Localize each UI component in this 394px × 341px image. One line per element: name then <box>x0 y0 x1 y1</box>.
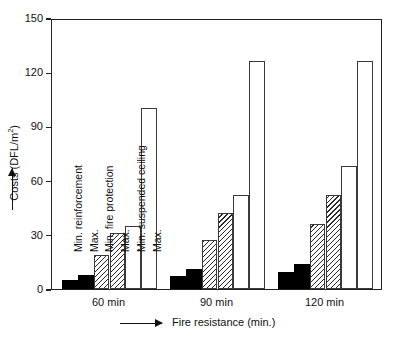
bar <box>62 280 78 289</box>
bar <box>294 264 310 289</box>
bar <box>170 276 186 289</box>
bar <box>326 195 342 289</box>
bar <box>341 166 357 289</box>
bar <box>357 61 373 289</box>
plot-area: Min. reinforcementMax.Min. fire protecti… <box>51 19 382 290</box>
bar <box>78 275 94 289</box>
bar <box>218 213 234 289</box>
bar <box>94 255 110 289</box>
bar <box>310 224 326 289</box>
chart-figure: Costs (DFL/m2) 0306090120150 Min. reinfo… <box>0 0 394 341</box>
bar <box>186 269 202 289</box>
y-tick-label: 90 <box>17 121 43 132</box>
x-axis-arrow-icon <box>120 323 162 324</box>
x-category-label: 90 min <box>161 296 272 308</box>
y-tick-label: 30 <box>17 230 43 241</box>
bar <box>278 272 294 289</box>
y-axis-arrow-icon <box>12 168 13 210</box>
y-tick-label: 60 <box>17 176 43 187</box>
x-category-label: 60 min <box>53 296 164 308</box>
x-axis-label: Fire resistance (min.) <box>172 316 275 328</box>
y-tick-label: 150 <box>17 13 43 24</box>
bar <box>249 61 265 289</box>
x-category-label: 120 min <box>269 296 380 308</box>
y-tick-label: 120 <box>17 67 43 78</box>
bar <box>202 240 218 289</box>
bar <box>233 195 249 289</box>
y-tick-label: 0 <box>17 284 43 295</box>
